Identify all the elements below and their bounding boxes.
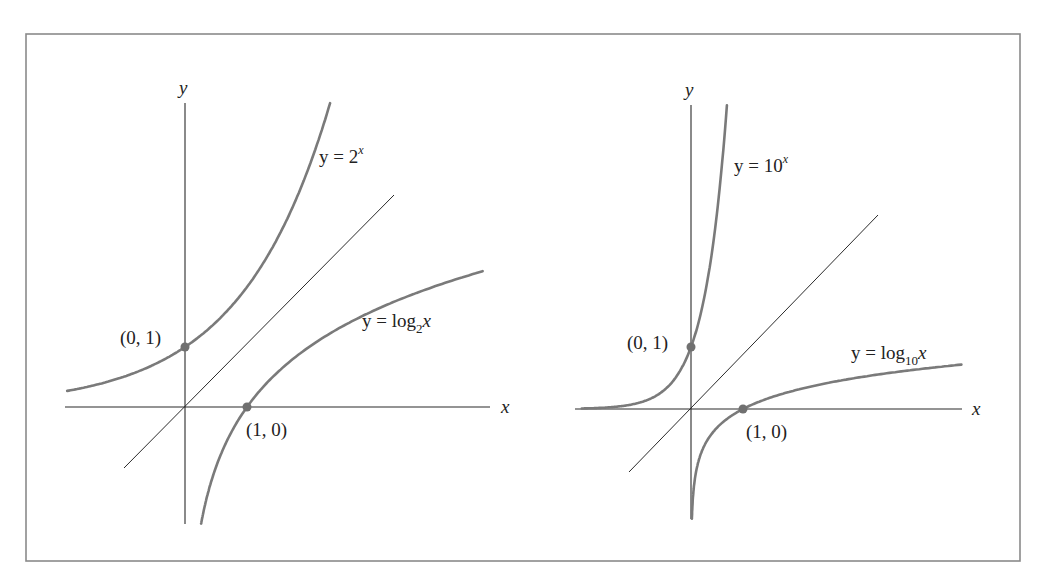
- right-point-label-0-1: (0, 1): [627, 332, 668, 354]
- right-exp-curve: [582, 105, 727, 408]
- right-point-label-1-0: (1, 0): [746, 421, 787, 443]
- log-exp-figure: y x y = 2x y = log2x (0, 1) (1, 0) y x y…: [0, 0, 1044, 585]
- right-point-0-1: [687, 343, 696, 352]
- left-exp-curve: [67, 103, 330, 391]
- right-log-curve: [692, 365, 962, 519]
- left-x-axis-label: x: [500, 396, 510, 417]
- right-y-axis-label: y: [683, 79, 694, 100]
- right-log-label: y = log10x: [851, 342, 927, 368]
- figure-frame: [26, 34, 1020, 561]
- left-log-label: y = log2x: [362, 310, 432, 336]
- right-graph: y x y = 10x y = log10x (0, 1) (1, 0): [575, 79, 981, 519]
- left-point-label-0-1: (0, 1): [120, 327, 161, 349]
- right-point-1-0: [739, 405, 748, 414]
- right-exp-label: y = 10x: [734, 152, 789, 176]
- left-point-label-1-0: (1, 0): [246, 419, 287, 441]
- right-x-axis-label: x: [971, 398, 981, 419]
- left-log-curve: [201, 271, 483, 523]
- left-exp-label: y = 2x: [319, 143, 364, 167]
- left-point-0-1: [181, 343, 190, 352]
- left-y-axis-label: y: [177, 77, 188, 98]
- left-graph: y x y = 2x y = log2x (0, 1) (1, 0): [65, 77, 510, 524]
- left-point-1-0: [243, 403, 252, 412]
